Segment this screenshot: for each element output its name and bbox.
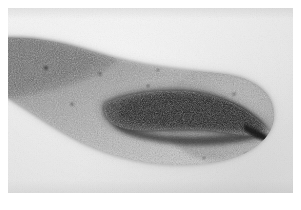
film-grain bbox=[8, 8, 293, 193]
photo-plate bbox=[8, 8, 293, 193]
specimen-drawing bbox=[8, 8, 293, 193]
figure-frame bbox=[0, 0, 301, 210]
caption-area bbox=[8, 193, 293, 210]
specimen-image bbox=[8, 8, 293, 193]
